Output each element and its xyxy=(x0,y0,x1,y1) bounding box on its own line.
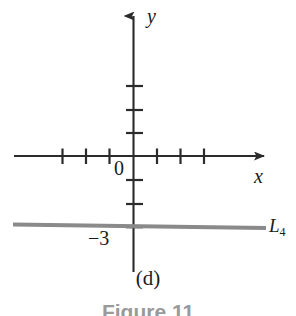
panel-caption: (d) xyxy=(0,268,296,289)
figure-container: y x 0 −3 L4 (d) Figure 11 xyxy=(0,0,296,316)
line-label-letter: L xyxy=(269,215,280,236)
line-label-L4: L4 xyxy=(269,216,286,235)
x-axis-label: x xyxy=(254,166,263,186)
y-intercept-label: −3 xyxy=(88,228,109,248)
plotted-line-L4[interactable] xyxy=(13,225,266,229)
y-axis-label: y xyxy=(147,6,156,26)
figure-caption: Figure 11 xyxy=(0,301,296,316)
origin-label: 0 xyxy=(114,158,124,178)
line-label-subscript: 4 xyxy=(280,225,286,239)
